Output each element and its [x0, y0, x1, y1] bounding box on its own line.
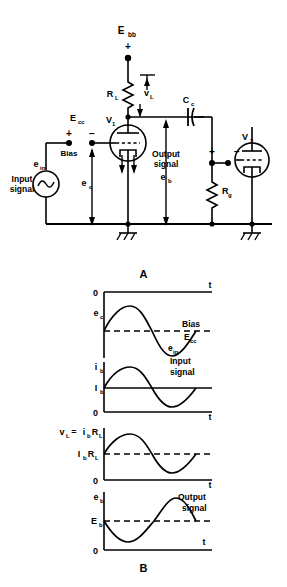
plot3-y-label-expr2-sub: L — [99, 433, 103, 439]
plot-load-voltage: v L = i b R L I b R L 0 t — [59, 427, 212, 490]
plot3-y-label-equals: = — [71, 427, 76, 437]
plot2-ref-label: I — [95, 383, 98, 393]
load-voltage-label: v — [144, 88, 149, 98]
bias-supply-label: E — [70, 113, 76, 123]
input-source-sine-glyph — [38, 181, 54, 187]
supply-label-sub: bb — [128, 31, 136, 38]
plot1-y-label: e — [93, 308, 98, 318]
figure-canvas: E bb + R L v L — [0, 0, 287, 587]
grid-resistor-label-sub: g — [228, 192, 232, 198]
load-voltage-arrow-down-head — [137, 109, 143, 117]
tube2-label: V — [242, 132, 248, 142]
load-voltage-arrow-up-head — [144, 78, 150, 86]
tube1-label-sub: 1 — [112, 121, 116, 127]
plot4-time-label: t — [203, 537, 206, 547]
plot4-y-label-sub: b — [100, 498, 104, 504]
plot2-y-label: i — [95, 362, 98, 372]
plot1-input-line1: Input — [170, 356, 191, 366]
grid-voltage-label: e — [81, 178, 86, 188]
plot4-zero-label: 0 — [93, 546, 98, 556]
plot1-time-label: t — [209, 280, 212, 290]
bias-minus-terminal — [89, 140, 95, 146]
plot3-y-label-expr: i — [83, 427, 86, 437]
figure-vacuum-tube-amplifier: E bb + R L v L — [0, 0, 287, 587]
coupling-cap-label-sub: c — [191, 101, 195, 107]
input-source-label-sub: in — [40, 165, 46, 171]
plot3-y-label-expr-sub: b — [87, 433, 91, 439]
plot4-ref-label: E — [91, 516, 97, 526]
output-voltage-label: e — [160, 172, 165, 182]
plot3-ref-label2: R — [88, 449, 95, 459]
output-voltage-arrow-head-up — [163, 119, 169, 128]
plot2-time-label: t — [209, 412, 212, 422]
plate-resistor-symbol — [123, 78, 133, 117]
plot3-y-label-sub: L — [66, 433, 70, 439]
plot1-bias-label: Bias — [182, 319, 200, 329]
plot-grid-voltage: 0 t e c Bias E cc e in Input signal — [93, 280, 212, 377]
supply-terminal-dot — [125, 55, 131, 61]
output-signal-line1: Output — [152, 149, 180, 159]
grid-resistor-symbol — [207, 163, 217, 224]
plot3-time-label: t — [209, 480, 212, 490]
bias-minus-sign: − — [89, 128, 95, 139]
output-signal-line2: signal — [154, 159, 179, 169]
panel-a-circuit: E bb + R L v L — [10, 25, 272, 240]
supply-label: E — [118, 25, 125, 36]
supply-polarity-plus: + — [125, 41, 131, 52]
bias-plus-sign: + — [66, 128, 72, 139]
bias-label: Bias — [61, 149, 78, 158]
coupling-cap-label: C — [183, 95, 190, 105]
plot-output-voltage: e b E b 0 t Output signal — [91, 492, 212, 556]
panel-a-label: A — [0, 268, 287, 280]
plot1-input-line2: signal — [170, 367, 195, 377]
panel-b-waveforms: 0 t e c Bias E cc e in Input signal i — [59, 280, 212, 556]
plot4-ref-label-sub: b — [99, 522, 103, 528]
plot3-ref-label-sub: b — [83, 455, 87, 461]
grid-voltage-arrow-head-up — [89, 148, 95, 157]
plot2-ref-label-sub: b — [100, 389, 104, 395]
plot3-ref-label: I — [78, 449, 81, 459]
output-voltage-label-sub: b — [168, 178, 172, 184]
plate-resistor-label-sub: L — [115, 95, 119, 101]
tube1-filament-arrow-left — [119, 165, 125, 174]
load-voltage-label-sub: L — [150, 94, 154, 100]
plot3-zero-label: 0 — [93, 476, 98, 486]
plot3-y-label: v — [59, 427, 64, 437]
panel-b-label: B — [0, 562, 287, 574]
plot1-ecc-label-sub: cc — [190, 338, 197, 344]
bias-supply-label-sub: cc — [78, 119, 85, 125]
tube1-filament-arrow-right — [131, 165, 137, 174]
plot1-ein-label-sub: in — [173, 349, 179, 355]
plot3-ref-label2-sub: L — [95, 455, 99, 461]
plot4-y-label: e — [93, 492, 98, 502]
plot1-zero-label: 0 — [93, 288, 98, 298]
input-source-label: e — [33, 159, 38, 169]
plot2-zero-label: 0 — [93, 408, 98, 418]
input-signal-line2: signal — [10, 184, 35, 194]
plot2-y-label-sub: b — [100, 368, 104, 374]
input-signal-line1: Input — [12, 174, 33, 184]
v2-plus-sign: + — [209, 146, 215, 157]
plate-resistor-label: R — [107, 89, 114, 99]
plot3-y-label-expr2: R — [92, 427, 99, 437]
